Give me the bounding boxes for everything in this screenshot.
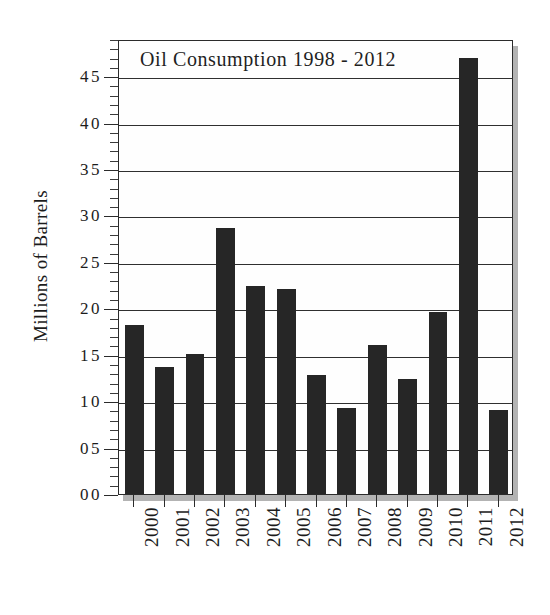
y-axis-minor-tick <box>110 198 118 199</box>
x-axis-tick-label: 2000 <box>142 507 162 577</box>
y-axis-minor-tick <box>110 68 118 69</box>
y-axis-minor-tick <box>110 319 118 320</box>
gridline <box>119 264 512 265</box>
gridline <box>119 357 512 358</box>
y-axis-minor-tick <box>110 272 118 273</box>
y-axis-tick-labels: 00051015202530354045 <box>46 40 102 495</box>
y-axis-minor-tick <box>110 291 118 292</box>
x-axis-tick <box>376 495 377 507</box>
y-axis-minor-tick <box>110 40 118 41</box>
x-axis-tick-label: 2003 <box>233 507 253 577</box>
y-axis-tick-label: 15 <box>56 346 102 366</box>
y-axis-major-tick <box>104 124 118 125</box>
x-axis-tick <box>224 495 225 507</box>
y-axis-major-tick <box>104 216 118 217</box>
y-axis-tick-label: 45 <box>56 67 102 87</box>
bar <box>337 408 356 494</box>
y-axis-major-tick <box>104 263 118 264</box>
x-axis-tick <box>346 495 347 507</box>
x-axis-tick-label: 2010 <box>446 507 466 577</box>
x-axis-tick-label: 2011 <box>476 507 496 577</box>
y-axis-tick-label: 25 <box>56 253 102 273</box>
x-axis-tick <box>194 495 195 507</box>
y-axis-minor-tick <box>110 161 118 162</box>
y-axis-tick-label: 35 <box>56 160 102 180</box>
y-axis-minor-tick <box>110 105 118 106</box>
y-axis-minor-tick <box>110 393 118 394</box>
y-axis-major-tick <box>104 356 118 357</box>
y-axis-minor-tick <box>110 365 118 366</box>
y-axis-major-tick <box>104 402 118 403</box>
y-axis-major-tick <box>104 449 118 450</box>
bar <box>459 58 478 494</box>
bar <box>429 312 448 494</box>
gridline <box>119 78 512 79</box>
y-axis-minor-tick <box>110 430 118 431</box>
x-axis-tick-label: 2009 <box>416 507 436 577</box>
gridline <box>119 171 512 172</box>
y-axis-minor-tick <box>110 235 118 236</box>
x-axis-tick <box>255 495 256 507</box>
y-axis-major-tick <box>104 77 118 78</box>
y-axis-minor-tick <box>110 254 118 255</box>
x-axis-tick <box>407 495 408 507</box>
y-axis-minor-tick <box>110 133 118 134</box>
bar <box>489 410 508 494</box>
chart-title: Oil Consumption 1998 - 2012 <box>140 48 396 71</box>
y-axis-minor-tick <box>110 179 118 180</box>
y-axis-minor-tick <box>110 346 118 347</box>
bar <box>246 286 265 494</box>
x-axis-tick-labels: 2000200120022003200420052006200720082009… <box>118 507 513 607</box>
y-axis-minor-tick <box>110 486 118 487</box>
bar <box>368 345 387 494</box>
y-axis-minor-tick <box>110 86 118 87</box>
y-axis-minor-tick <box>110 244 118 245</box>
y-axis-minor-tick <box>110 49 118 50</box>
y-axis-tick-label: 05 <box>56 439 102 459</box>
bar-chart-figure: Millions of Barrels 00051015202530354045… <box>0 0 550 615</box>
y-axis-minor-tick <box>110 300 118 301</box>
x-axis-tick <box>285 495 286 507</box>
x-axis-tick <box>164 495 165 507</box>
y-axis-minor-tick <box>110 374 118 375</box>
y-axis-ticks <box>104 40 118 495</box>
y-axis-minor-tick <box>110 281 118 282</box>
y-axis-minor-tick <box>110 207 118 208</box>
bar <box>125 325 144 494</box>
x-axis-tick <box>133 495 134 507</box>
y-axis-tick-label: 20 <box>56 299 102 319</box>
y-axis-tick-label: 30 <box>56 206 102 226</box>
y-axis-tick-label: 10 <box>56 392 102 412</box>
x-axis-tick <box>316 495 317 507</box>
x-axis-tick <box>467 495 468 507</box>
y-axis-minor-tick <box>110 384 118 385</box>
y-axis-minor-tick <box>110 114 118 115</box>
y-axis-tick-label: 40 <box>56 114 102 134</box>
y-axis-tick-label: 00 <box>56 485 102 505</box>
y-axis-minor-tick <box>110 337 118 338</box>
y-axis-minor-tick <box>110 59 118 60</box>
x-axis-tick-label: 2002 <box>203 507 223 577</box>
x-axis-tick-label: 2008 <box>385 507 405 577</box>
y-axis-minor-tick <box>110 226 118 227</box>
y-axis-minor-tick <box>110 476 118 477</box>
bar <box>307 375 326 494</box>
y-axis-minor-tick <box>110 328 118 329</box>
x-axis-tick <box>437 495 438 507</box>
y-axis-minor-tick <box>110 189 118 190</box>
y-axis-major-tick <box>104 309 118 310</box>
bar <box>155 367 174 494</box>
y-axis-major-tick <box>104 495 118 496</box>
bar <box>186 354 205 494</box>
y-axis-minor-tick <box>110 151 118 152</box>
gridline <box>119 125 512 126</box>
x-axis-tick-label: 2001 <box>173 507 193 577</box>
gridline <box>119 310 512 311</box>
bar <box>216 228 235 495</box>
y-axis-minor-tick <box>110 467 118 468</box>
x-axis-tick-label: 2007 <box>355 507 375 577</box>
x-axis-tick-label: 2005 <box>294 507 314 577</box>
y-axis-minor-tick <box>110 142 118 143</box>
x-axis-tick-label: 2006 <box>325 507 345 577</box>
y-axis-minor-tick <box>110 421 118 422</box>
